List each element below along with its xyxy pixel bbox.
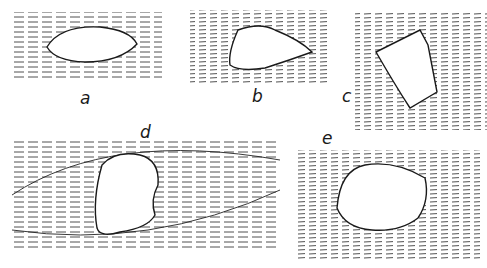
label-a: a [80,90,90,107]
label-c: c [342,88,351,105]
label-b: b [252,88,263,105]
clast-e [337,164,426,230]
panel-b [190,10,330,85]
label-d: d [140,124,151,141]
foliation-diagram [0,0,487,268]
clast-d [95,154,158,235]
label-e: e [322,130,332,147]
panel-d [12,140,280,250]
panel-a [12,12,162,80]
panel-e [295,150,480,260]
panel-c [355,12,487,130]
